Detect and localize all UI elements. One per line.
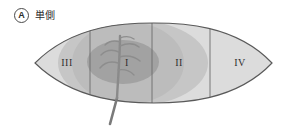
zone-label-II: II <box>175 57 183 68</box>
leaf-zone-diagram: III I II IV <box>0 0 287 129</box>
zone-label-I: I <box>125 57 129 68</box>
zone-label-IV: IV <box>234 57 246 68</box>
leaf-core-ellipse <box>87 40 159 84</box>
zone-label-III: III <box>61 57 73 68</box>
leaf-petiole <box>110 98 117 124</box>
figure-panel: A 単側 <box>0 0 287 129</box>
